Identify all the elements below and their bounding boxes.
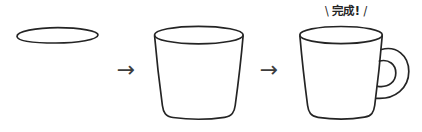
callout-right-emphasis-mark: /: [363, 3, 367, 18]
drawing-tutorial-canvas: → → \ 完成! /: [0, 0, 422, 132]
completion-label: 完成!: [332, 2, 361, 18]
tapered-cup-sketch-icon: [155, 26, 244, 119]
callout-left-emphasis-mark: \: [325, 3, 329, 18]
step-arrow-1-icon: →: [111, 58, 141, 82]
mug-with-handle-sketch-icon: [300, 27, 409, 120]
oval-rim-sketch-icon: [17, 28, 98, 43]
completion-callout: \ 完成! /: [314, 2, 378, 18]
step-arrow-2-icon: →: [254, 58, 284, 82]
sketch-canvas: [0, 0, 422, 132]
